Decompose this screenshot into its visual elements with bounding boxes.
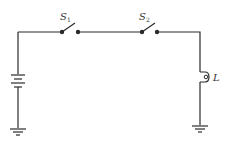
battery-icon xyxy=(11,75,25,87)
lamp-label: L xyxy=(212,72,220,83)
top-wire-right xyxy=(157,32,200,72)
switch-s1 xyxy=(60,23,80,34)
switch-s1-subscript: 1 xyxy=(67,16,71,23)
ground-icon-left xyxy=(10,129,26,135)
switch-s2-label: S xyxy=(139,11,146,22)
lamp-icon xyxy=(200,72,209,82)
switch-s2 xyxy=(140,23,159,34)
ground-icon-right xyxy=(192,126,208,132)
switch-s1-label: S xyxy=(60,11,67,22)
circuit-diagram: S 1 S 2 L xyxy=(0,0,228,145)
switch-s2-subscript: 2 xyxy=(146,16,150,23)
